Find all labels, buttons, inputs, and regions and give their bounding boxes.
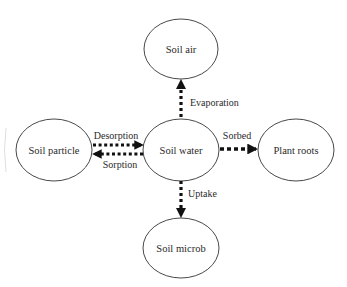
node-soil-microb: Soil microb <box>143 218 219 278</box>
node-soil-particle: Soil particle <box>16 119 92 181</box>
edge-desorption: Desorption <box>93 130 142 145</box>
node-label: Plant roots <box>273 145 318 156</box>
edge-evaporation: Evaporation <box>181 81 239 117</box>
edge-label: Sorbed <box>223 130 251 141</box>
edge-label: Sorption <box>103 159 137 170</box>
edge-label: Evaporation <box>190 97 239 108</box>
node-label: Soil microb <box>156 243 205 254</box>
node-plant-roots: Plant roots <box>258 119 334 181</box>
edge-uptake: Uptake <box>181 181 217 216</box>
edge-label: Uptake <box>188 188 217 199</box>
edge-label: Desorption <box>94 130 138 141</box>
node-label: Soil particle <box>28 145 79 156</box>
node-label: Soil air <box>166 44 197 55</box>
soil-water-diagram: Soil air Soil particle Soil water Plant … <box>0 0 347 287</box>
node-label: Soil water <box>160 145 203 156</box>
edge-artifacts <box>5 128 7 172</box>
node-soil-air: Soil air <box>144 19 218 79</box>
edge-sorbed: Sorbed <box>220 130 256 149</box>
edge-sorption: Sorption <box>94 154 143 170</box>
node-soil-water: Soil water <box>143 119 219 181</box>
